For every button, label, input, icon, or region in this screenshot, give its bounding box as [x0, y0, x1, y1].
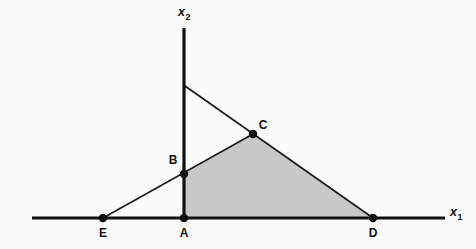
point-marker-E: [99, 214, 107, 222]
figure-canvas: A B C D E x1 x2: [0, 0, 476, 249]
geometry-figure: A B C D E x1 x2: [0, 0, 476, 249]
point-label-D: D: [369, 226, 378, 240]
x1-axis-label: x1: [449, 205, 462, 222]
point-marker-A: [180, 214, 188, 222]
point-label-C: C: [259, 118, 268, 132]
shaded-region-ABCD: [184, 134, 373, 218]
point-label-A: A: [180, 226, 189, 240]
x1-axis-label-sub: 1: [457, 212, 462, 222]
point-marker-B: [180, 170, 188, 178]
x2-axis-label-sub: 2: [185, 12, 190, 22]
point-label-B: B: [169, 153, 178, 167]
point-marker-D: [369, 214, 377, 222]
point-label-E: E: [99, 226, 107, 240]
x2-axis-label: x2: [177, 5, 190, 22]
point-marker-C: [249, 130, 257, 138]
